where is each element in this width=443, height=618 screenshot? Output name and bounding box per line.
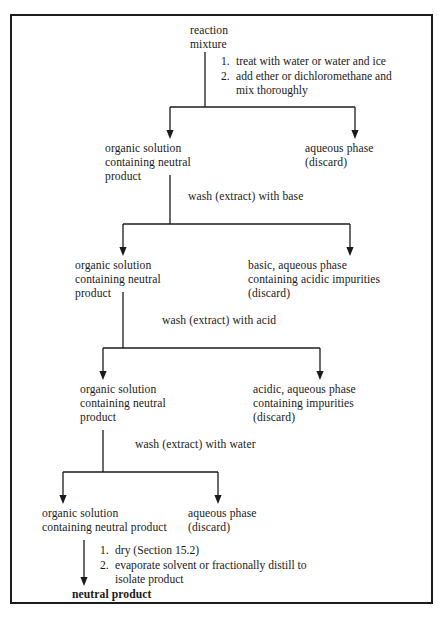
step-text: evaporate solvent or fractionally distil… xyxy=(115,559,307,574)
flowchart-canvas: reaction mixture 1. treat with water or … xyxy=(0,0,443,618)
node-level3-organic-solution: organic solution containing neutral prod… xyxy=(80,383,166,426)
step-list-initial: 1. treat with water or water and ice 2. … xyxy=(221,55,392,99)
step-wash-with-base: wash (extract) with base xyxy=(188,190,303,204)
step-text-continuation: isolate product xyxy=(115,573,307,588)
step-wash-with-acid: wash (extract) with acid xyxy=(162,314,276,328)
node-level4-organic-solution: organic solution containing neutral prod… xyxy=(42,507,167,535)
step-item: 1. dry (Section 15.2) xyxy=(100,544,307,559)
step-number: 1. xyxy=(221,55,236,70)
step-item: 1. treat with water or water and ice xyxy=(221,55,392,70)
node-neutral-product: neutral product xyxy=(72,588,152,602)
step-text-continuation: mix thoroughly xyxy=(236,84,392,99)
step-item: 2. evaporate solvent or fractionally dis… xyxy=(100,559,307,574)
step-text: dry (Section 15.2) xyxy=(115,544,199,559)
node-level2-basic-aqueous-phase: basic, aqueous phase containing acidic i… xyxy=(248,259,380,302)
step-wash-with-water: wash (extract) with water xyxy=(135,438,256,452)
node-level1-aqueous-phase: aqueous phase (discard) xyxy=(305,142,374,170)
step-text: treat with water or water and ice xyxy=(236,55,386,70)
step-number: 2. xyxy=(100,559,115,574)
node-level2-organic-solution: organic solution containing neutral prod… xyxy=(75,259,161,302)
node-level4-aqueous-phase: aqueous phase (discard) xyxy=(188,507,257,535)
node-level3-acidic-aqueous-phase: acidic, aqueous phase containing impurit… xyxy=(253,383,356,426)
node-level1-organic-solution: organic solution containing neutral prod… xyxy=(105,142,191,185)
step-text: add ether or dichloromethane and xyxy=(236,70,392,85)
step-item: 2. add ether or dichloromethane and xyxy=(221,70,392,85)
step-number: 2. xyxy=(221,70,236,85)
step-list-final: 1. dry (Section 15.2) 2. evaporate solve… xyxy=(100,544,307,588)
step-number: 1. xyxy=(100,544,115,559)
node-reaction-mixture: reaction mixture xyxy=(190,24,228,52)
